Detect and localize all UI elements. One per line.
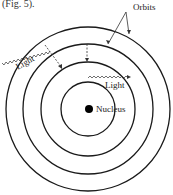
light-label-inner: Light: [105, 80, 125, 90]
bohr-model-diagram: (Fig. 5). Nucleus Orbits Light Light: [0, 0, 173, 195]
electron-jump-outer: [45, 45, 62, 68]
light-label-outer: Light: [14, 53, 36, 72]
caption-fragment: (Fig. 5).: [2, 0, 35, 10]
arrowhead-icon: [127, 75, 131, 79]
nucleus-label: Nucleus: [96, 104, 126, 114]
nucleus-dot: [85, 105, 93, 113]
orbits-label: Orbits: [133, 2, 156, 12]
arrowhead-icon: [127, 30, 131, 34]
orbits-pointers: [108, 12, 129, 44]
